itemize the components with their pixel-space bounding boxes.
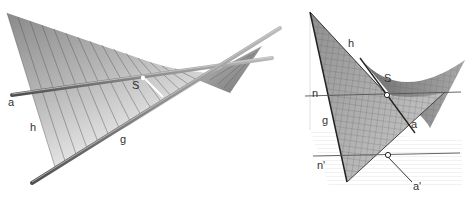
label-h: h — [30, 121, 36, 133]
label-n-prime: n' — [317, 159, 325, 171]
label-S-right: S — [384, 72, 391, 84]
label-S: S — [132, 79, 139, 91]
point-S — [141, 76, 145, 80]
label-h-right: h — [348, 37, 354, 49]
label-a: a — [8, 96, 15, 108]
point-S-projection — [385, 152, 390, 157]
left-figure: a h g S — [7, 13, 280, 183]
right-figure: h S n g a n' a' — [305, 12, 465, 192]
label-g: g — [120, 133, 126, 145]
label-g-right: g — [322, 114, 328, 126]
label-n: n — [312, 87, 318, 99]
point-S-right — [384, 92, 389, 97]
label-a-prime: a' — [413, 180, 421, 192]
ruled-surface-wing — [198, 46, 262, 93]
diagram-canvas: a h g S h S n g a n' a' — [0, 0, 473, 197]
label-a-right: a — [411, 118, 418, 130]
